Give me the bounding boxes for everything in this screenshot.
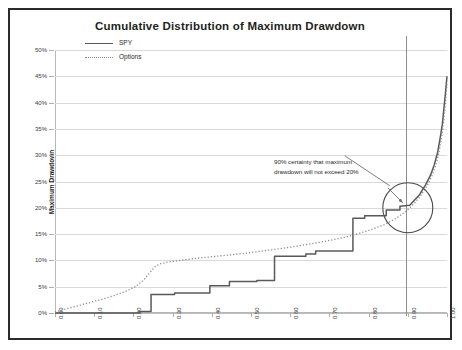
x-axis-tick	[212, 313, 213, 317]
legend-label-spy: SPY	[119, 39, 132, 46]
y-axis-tick-label: 30%	[35, 152, 47, 158]
y-axis-tick-label: 5%	[38, 284, 47, 290]
annotation-leader-line	[345, 156, 390, 186]
series-line-spy	[55, 76, 447, 313]
x-axis-tick	[251, 313, 252, 317]
x-axis-tick	[329, 313, 330, 317]
y-axis-tick-label: 20%	[35, 205, 47, 211]
annotation-arrow	[388, 188, 403, 203]
y-axis-tick-label: 35%	[35, 126, 47, 132]
series-line-options	[55, 83, 447, 312]
plot-area: Maximum Drawdown Cumulative Percentile 0…	[55, 50, 447, 313]
x-axis-tick	[290, 313, 291, 317]
y-axis-tick-label: 25%	[35, 179, 47, 185]
x-axis-tick-label: 1.00	[450, 307, 456, 319]
y-axis-tick	[49, 234, 54, 235]
x-axis-tick	[173, 313, 174, 317]
y-axis-tick-label: 45%	[35, 73, 47, 79]
y-axis-tick	[49, 155, 54, 156]
x-axis-tick	[408, 313, 409, 317]
series-layer	[55, 50, 447, 313]
x-axis-tick	[447, 313, 448, 317]
legend-swatch-solid-line	[85, 43, 113, 44]
y-axis-tick	[49, 182, 54, 183]
y-axis-tick	[49, 313, 54, 314]
y-axis-tick	[49, 260, 54, 261]
y-axis-tick-label: 15%	[35, 231, 47, 237]
x-axis-tick	[369, 313, 370, 317]
y-axis-tick	[49, 76, 54, 77]
y-axis-tick-label: 0%	[38, 310, 47, 316]
y-axis-tick	[49, 287, 54, 288]
chart-frame: Cumulative Distribution of Maximum Drawd…	[8, 8, 452, 340]
y-axis-tick	[49, 129, 54, 130]
y-axis-tick	[49, 50, 54, 51]
y-axis-tick-label: 10%	[35, 257, 47, 263]
y-axis-tick-label: 50%	[35, 47, 47, 53]
y-axis-tick	[49, 208, 54, 209]
chart-title: Cumulative Distribution of Maximum Drawd…	[10, 20, 450, 32]
y-axis-tick	[49, 103, 54, 104]
y-axis-tick-label: 40%	[35, 100, 47, 106]
